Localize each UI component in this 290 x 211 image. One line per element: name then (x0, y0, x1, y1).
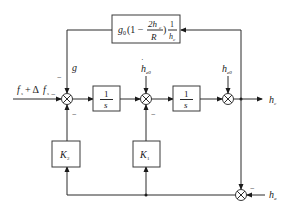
integrator-block-1: 1 s (93, 86, 120, 111)
svg-text:c: c (274, 101, 277, 106)
minus-sign-ha: − (250, 184, 255, 193)
svg-text:s: s (47, 91, 49, 96)
input-signal-label: f s + Δ f s (17, 84, 49, 96)
summing-junction-4 (236, 190, 247, 201)
svg-text:s: s (21, 91, 23, 96)
minus-sign-k2: − (72, 110, 77, 119)
block-diagram: g 0 (1 − 2h c R ) 1 h c g − f s + Δ f s … (0, 0, 290, 211)
g-signal-label: g (72, 62, 77, 73)
summing-junction-2 (141, 94, 152, 105)
gain-k2-block: K 2 (52, 141, 80, 167)
paren-close: ) (163, 24, 166, 36)
svg-text:e0: e0 (146, 70, 151, 75)
frac2-num: 1 (170, 20, 174, 29)
minus-sign-g: − (57, 73, 62, 82)
minus-sign-k1: − (151, 110, 156, 119)
svg-text:s: s (184, 100, 188, 110)
h-dot-e0-label: · h e0 (141, 55, 151, 75)
minus-sign-input: − (51, 90, 56, 99)
svg-text:s: s (104, 100, 108, 110)
summing-junction-3 (223, 94, 234, 105)
measured-ha-label: h a (269, 189, 277, 201)
summing-junction-1 (62, 94, 73, 105)
svg-text:a: a (274, 196, 277, 201)
gain-k1-block: K 1 (133, 141, 160, 167)
svg-text:1: 1 (104, 89, 109, 99)
integrator-block-2: 1 s (173, 86, 200, 111)
svg-text:e0: e0 (227, 70, 232, 75)
feedback-gain-block: g 0 (1 − 2h c R ) 1 h c (112, 15, 180, 43)
paren-open: (1 − (127, 24, 144, 36)
frac-den: R (150, 32, 157, 42)
output-hc-label: h c (269, 94, 277, 106)
svg-text:+ Δ: + Δ (25, 84, 40, 95)
frac-num: 2h (148, 19, 158, 29)
g0-sub: 0 (123, 30, 126, 36)
h-e0-label: h e0 (222, 63, 232, 75)
svg-text:1: 1 (184, 89, 189, 99)
